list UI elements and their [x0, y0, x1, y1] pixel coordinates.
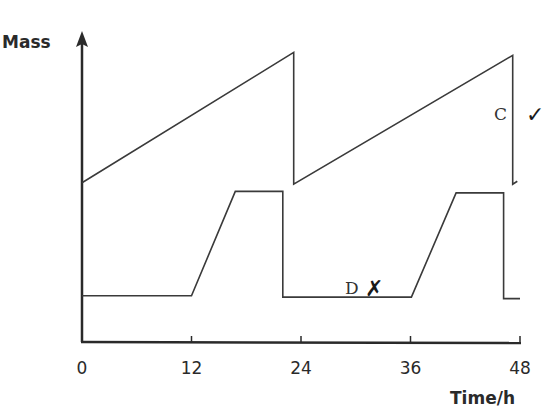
series-c-line	[82, 52, 517, 184]
check-mark-icon: ✓	[526, 102, 544, 127]
x-tick-label: 0	[77, 358, 88, 378]
x-axis-line	[81, 342, 521, 343]
series-d-label: D	[345, 278, 359, 298]
x-tick-label: 48	[509, 358, 531, 378]
series-c-label: C	[494, 104, 507, 124]
x-tick-label: 36	[400, 358, 422, 378]
cross-mark-icon: ✗	[365, 276, 383, 301]
x-tick-label: 24	[290, 358, 312, 378]
x-tick-label: 12	[181, 358, 203, 378]
series-d-line	[82, 191, 520, 298]
mass-time-chart: Mass 012243648 Time/h C ✓ D ✗	[0, 0, 545, 408]
x-axis-label: Time/h	[450, 388, 515, 408]
y-axis-label: Mass	[2, 32, 51, 52]
